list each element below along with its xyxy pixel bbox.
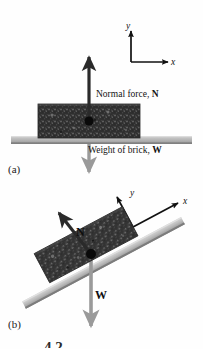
- application-point-a: [84, 116, 93, 125]
- panel-label-b: (b): [8, 318, 21, 330]
- panel-b-graphics: [22, 197, 185, 326]
- application-point-b: [86, 249, 96, 259]
- axis-x-label-b: x: [183, 196, 187, 206]
- physics-force-diagram-figure: y x Normal force, N Weight of brick, W (…: [0, 0, 203, 349]
- weight-annotation-a: Weight of brick, W: [88, 145, 162, 155]
- axis-x-label-a: x: [171, 57, 175, 67]
- normal-force-annotation-a-text: Normal force,: [96, 89, 152, 99]
- axis-y-label-a: y: [126, 21, 130, 31]
- axis-y-label-b: y: [130, 188, 134, 198]
- panel-label-a: (a): [8, 163, 20, 175]
- weight-symbol-a: W: [152, 145, 162, 155]
- figure-caption-partial: 4.2: [44, 337, 63, 348]
- weight-symbol-b: W: [95, 288, 107, 303]
- normal-force-symbol-a: N: [152, 89, 159, 99]
- axes-a: [131, 31, 168, 62]
- weight-annotation-a-text: Weight of brick,: [88, 145, 152, 155]
- normal-force-symbol-b: N: [76, 225, 85, 240]
- normal-force-annotation-a: Normal force, N: [96, 89, 159, 99]
